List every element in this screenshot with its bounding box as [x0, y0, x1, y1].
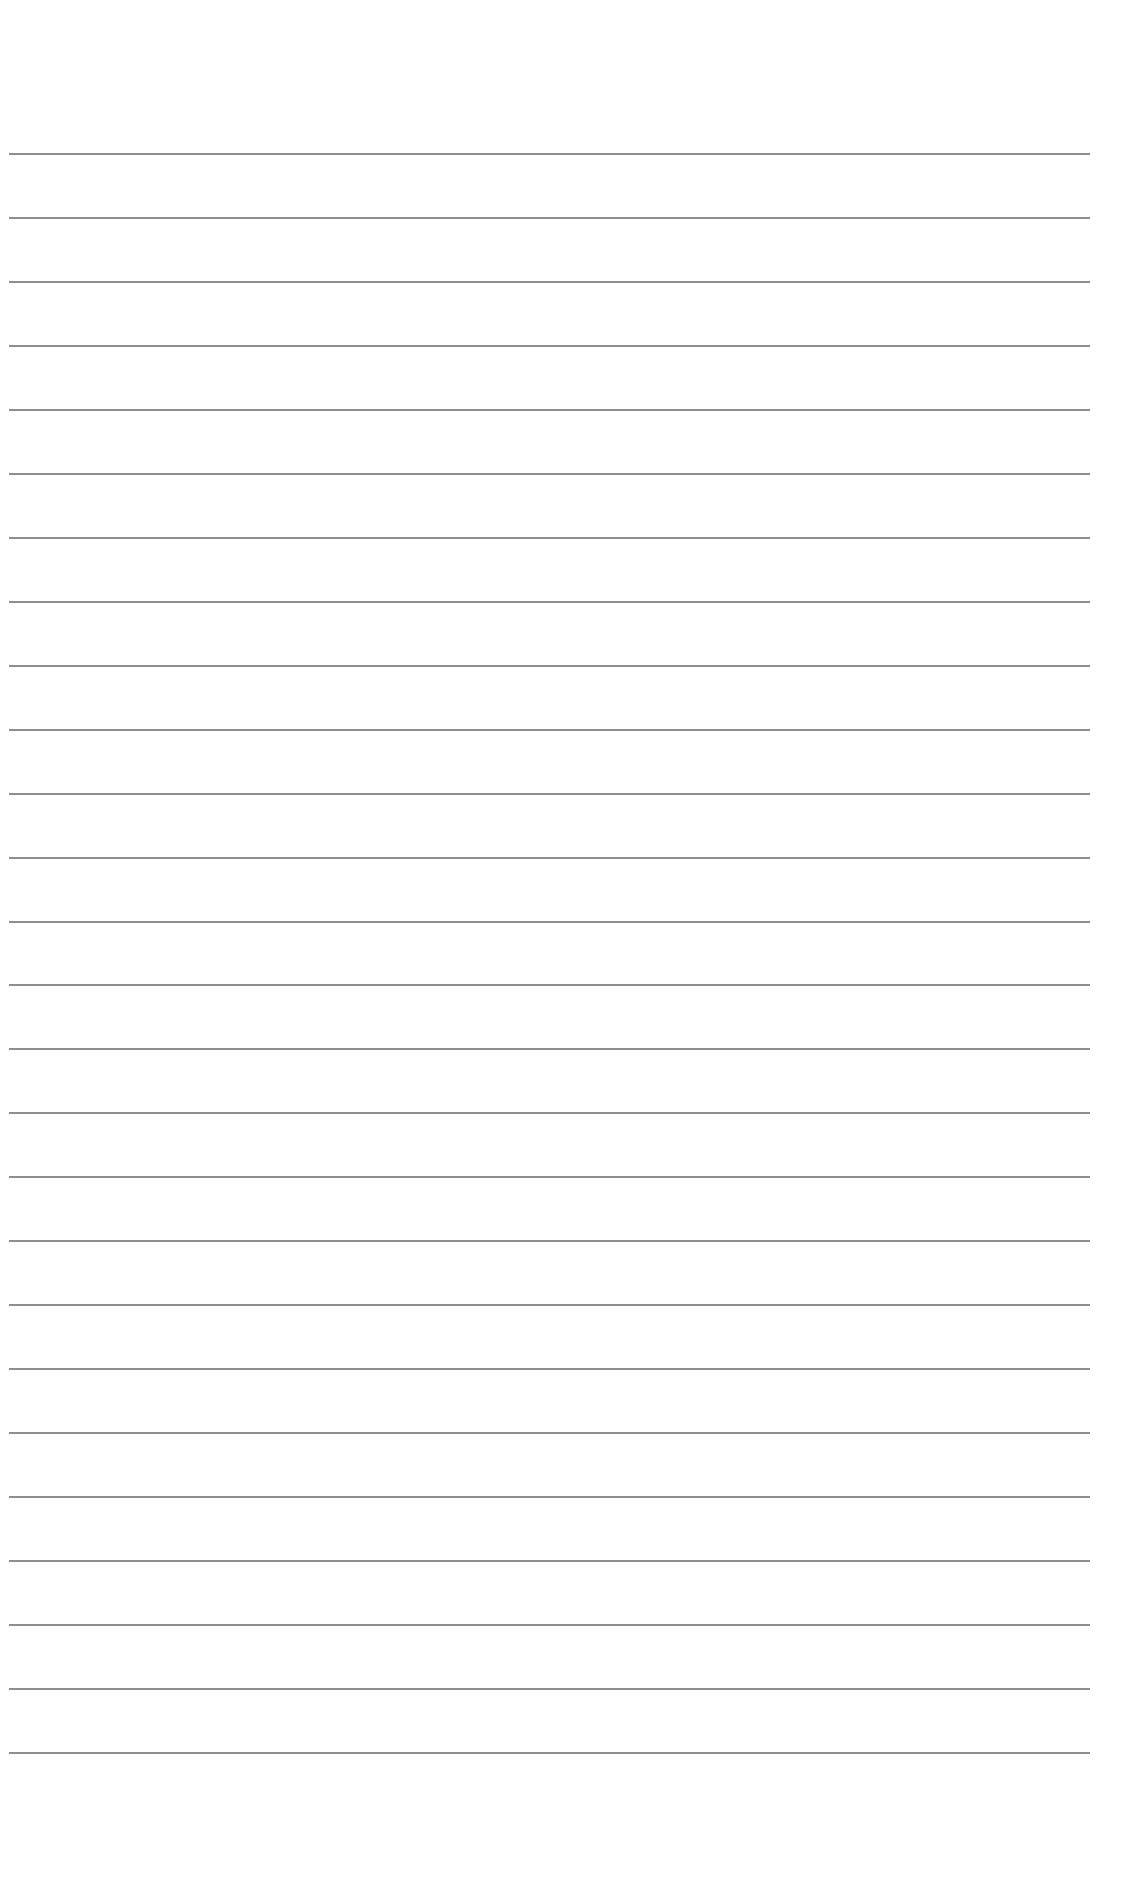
- lined-paper-page: [0, 0, 1147, 1881]
- ruled-line: [9, 217, 1090, 219]
- ruled-line: [9, 1240, 1090, 1242]
- ruled-line: [9, 1304, 1090, 1306]
- ruled-line: [9, 537, 1090, 539]
- ruled-line: [9, 857, 1090, 859]
- ruled-line: [9, 1560, 1090, 1562]
- ruled-line: [9, 345, 1090, 347]
- ruled-line: [9, 1432, 1090, 1434]
- ruled-line: [9, 1368, 1090, 1370]
- ruled-line: [9, 1752, 1090, 1754]
- ruled-line: [9, 1496, 1090, 1498]
- ruled-line: [9, 153, 1090, 155]
- ruled-line: [9, 1624, 1090, 1626]
- ruled-line: [9, 1688, 1090, 1690]
- ruled-line: [9, 729, 1090, 731]
- ruled-line: [9, 1112, 1090, 1114]
- ruled-line: [9, 409, 1090, 411]
- ruled-line: [9, 601, 1090, 603]
- ruled-line: [9, 1176, 1090, 1178]
- ruled-line: [9, 1048, 1090, 1050]
- ruled-line: [9, 281, 1090, 283]
- ruled-line: [9, 793, 1090, 795]
- ruled-line: [9, 921, 1090, 923]
- ruled-line: [9, 665, 1090, 667]
- ruled-line: [9, 473, 1090, 475]
- ruled-line: [9, 984, 1090, 986]
